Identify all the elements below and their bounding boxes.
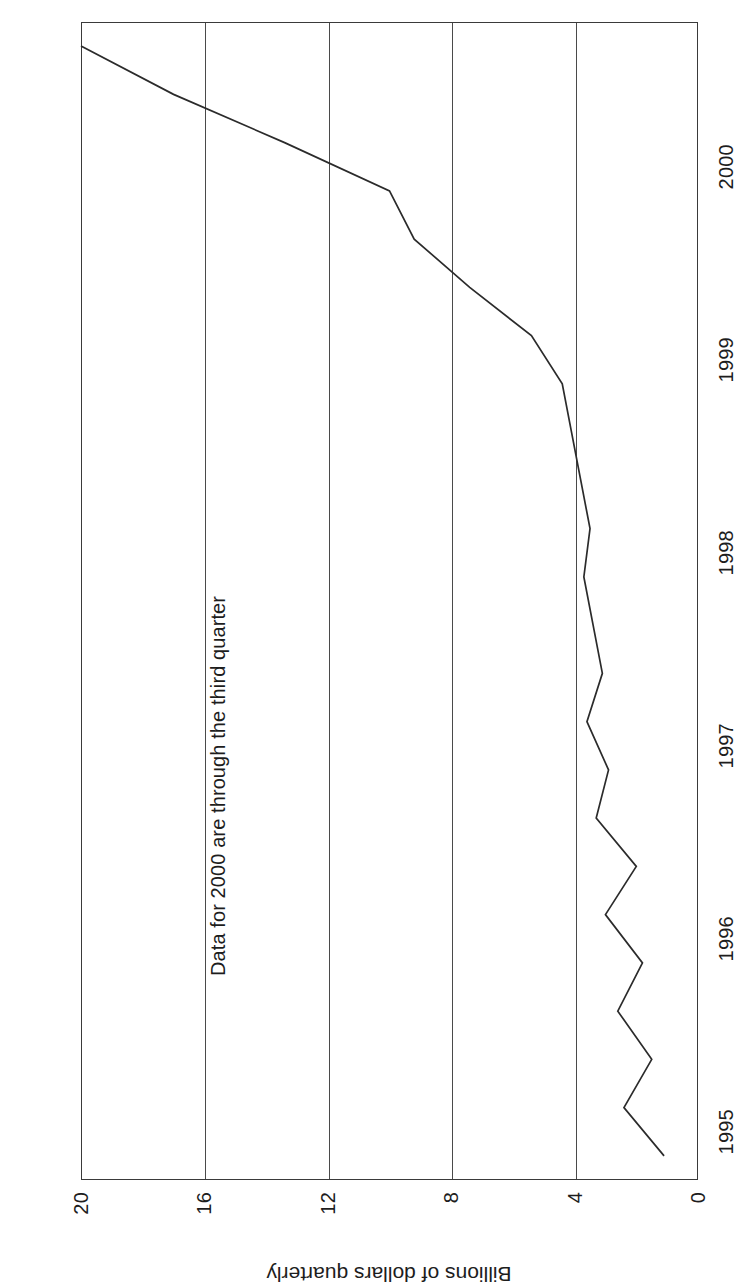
x-tick-label-1998: 1998 — [716, 513, 736, 593]
y-tick-label-12: 12 — [318, 1192, 338, 1252]
line-chart-figure: 048121620 199519961997199819992000 Billi… — [0, 0, 746, 1286]
y-tick-label-20: 20 — [71, 1192, 91, 1252]
chart-page: 048121620 199519961997199819992000 Billi… — [0, 0, 746, 1286]
y-tick-label-4: 4 — [565, 1192, 585, 1252]
y-tick-label-8: 8 — [441, 1192, 461, 1252]
x-tick-label-1999: 1999 — [716, 320, 736, 400]
series-layer — [81, 22, 698, 1180]
y-tick-label-0: 0 — [688, 1192, 708, 1252]
series-line-quarterly-value — [81, 46, 664, 1156]
y-axis-title: Billions of dollars quarterly — [179, 1262, 599, 1286]
rotated-figure-wrapper: 048121620 199519961997199819992000 Billi… — [0, 0, 746, 1286]
x-tick-label-1997: 1997 — [716, 706, 736, 786]
chart-annotation: Data for 2000 are through the third quar… — [207, 596, 230, 976]
x-tick-label-1995: 1995 — [716, 1092, 736, 1172]
x-tick-label-2000: 2000 — [716, 127, 736, 207]
x-tick-label-1996: 1996 — [716, 899, 736, 979]
y-tick-label-16: 16 — [194, 1192, 214, 1252]
